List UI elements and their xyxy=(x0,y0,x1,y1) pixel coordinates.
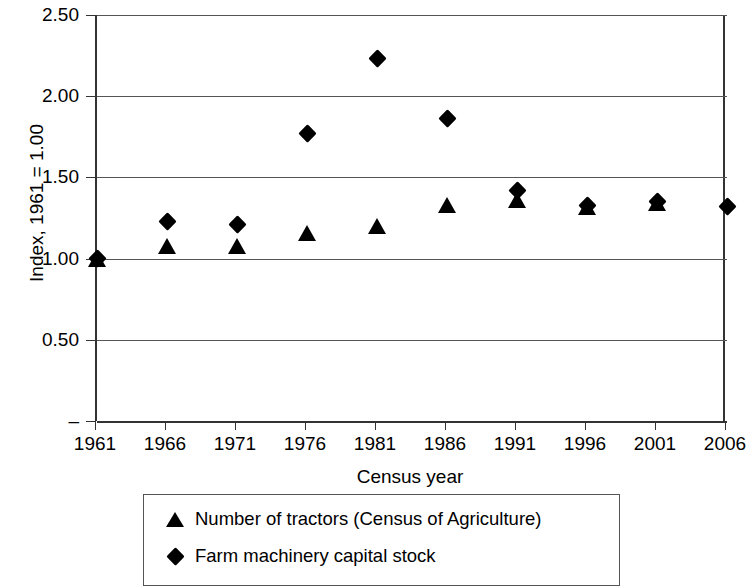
x-axis-tick-mark xyxy=(655,421,656,430)
y-axis-tick-label: 1.50 xyxy=(23,167,79,186)
y-axis-tick-label: 1.00 xyxy=(23,249,79,268)
triangle-icon xyxy=(438,197,456,213)
triangle-icon xyxy=(166,510,184,528)
x-axis-tick-label: 1961 xyxy=(60,434,130,455)
x-axis-title: Census year xyxy=(95,466,725,488)
x-axis-tick-label: 1996 xyxy=(550,434,620,455)
y-axis-tick-mark xyxy=(86,340,95,341)
x-axis-tick-label: 1971 xyxy=(200,434,270,455)
x-axis-tick-mark xyxy=(95,421,96,430)
diamond-icon xyxy=(438,110,456,128)
y-axis-tick-label: 2.50 xyxy=(23,5,79,24)
x-axis-tick-label: 1976 xyxy=(270,434,340,455)
x-axis-tick-label: 1981 xyxy=(340,434,410,455)
x-axis-tick-label: 1991 xyxy=(480,434,550,455)
y-axis-tick-label: 0.50 xyxy=(23,330,79,349)
y-axis-title: Index, 1961 = 1.00 xyxy=(26,83,48,323)
y-axis-tick-label: – xyxy=(23,411,79,430)
triangle-icon xyxy=(368,218,386,234)
triangle-icon xyxy=(158,238,176,254)
legend-label-capital-stock: Farm machinery capital stock xyxy=(195,545,436,567)
diamond-icon xyxy=(228,215,246,233)
x-axis-tick-mark xyxy=(725,421,726,430)
diamond-icon xyxy=(298,124,316,142)
x-axis-tick-label: 1986 xyxy=(410,434,480,455)
diamond-icon xyxy=(166,547,184,565)
x-axis-tick-mark xyxy=(585,421,586,430)
legend-item-tractors: Number of tractors (Census of Agricultur… xyxy=(166,506,542,532)
x-axis-tick-mark xyxy=(235,421,236,430)
diamond-icon xyxy=(158,212,176,230)
chart-legend: Number of tractors (Census of Agricultur… xyxy=(143,494,620,586)
x-axis-tick-label: 2001 xyxy=(620,434,690,455)
triangle-icon xyxy=(228,238,246,254)
y-axis-tick-label: 2.00 xyxy=(23,86,79,105)
x-axis-tick-mark xyxy=(305,421,306,430)
diamond-icon xyxy=(368,50,386,68)
y-axis-tick-mark xyxy=(86,421,95,422)
x-axis-tick-mark xyxy=(445,421,446,430)
y-axis-tick-mark xyxy=(86,96,95,97)
gridline xyxy=(97,96,727,97)
x-axis-tick-mark xyxy=(375,421,376,430)
gridline xyxy=(97,421,727,423)
triangle-icon xyxy=(298,225,316,241)
gridline xyxy=(97,15,727,16)
legend-label-tractors: Number of tractors (Census of Agricultur… xyxy=(195,508,542,530)
x-axis-tick-label: 1966 xyxy=(130,434,200,455)
gridline xyxy=(97,177,727,178)
y-axis-tick-mark xyxy=(86,15,95,16)
legend-item-capital-stock: Farm machinery capital stock xyxy=(166,543,436,569)
plot-area xyxy=(95,15,725,421)
gridline xyxy=(97,340,727,341)
x-axis-tick-mark xyxy=(515,421,516,430)
y-axis-tick-mark xyxy=(86,177,95,178)
x-axis-tick-label: 2006 xyxy=(690,434,750,455)
diamond-icon xyxy=(718,197,736,215)
x-axis-tick-mark xyxy=(165,421,166,430)
gridline xyxy=(97,259,727,260)
